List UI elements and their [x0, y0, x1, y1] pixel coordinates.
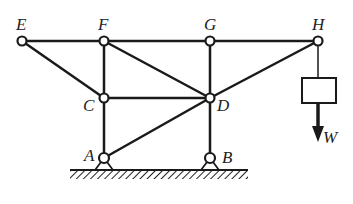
label-A: A: [83, 146, 95, 165]
label-D: D: [216, 96, 230, 115]
joint-F: [100, 37, 109, 46]
truss-diagram: E F G H C D A B W: [0, 0, 353, 204]
joint-H: [314, 37, 323, 46]
joint-E: [18, 37, 27, 46]
joint-G: [206, 37, 215, 46]
label-F: F: [97, 15, 109, 34]
ground: [70, 170, 248, 179]
label-E: E: [15, 15, 27, 34]
label-H: H: [311, 15, 326, 34]
member-EC: [22, 41, 104, 98]
member-AD: [104, 98, 210, 158]
joint-A: [99, 153, 109, 163]
joint-D: [206, 94, 215, 103]
member-FD: [104, 41, 210, 98]
truss-members: [22, 41, 318, 158]
joints: [18, 37, 323, 164]
label-W: W: [323, 128, 339, 147]
joint-B: [205, 153, 215, 163]
joint-C: [100, 94, 109, 103]
label-G: G: [204, 15, 216, 34]
label-B: B: [222, 148, 233, 167]
label-C: C: [83, 96, 95, 115]
